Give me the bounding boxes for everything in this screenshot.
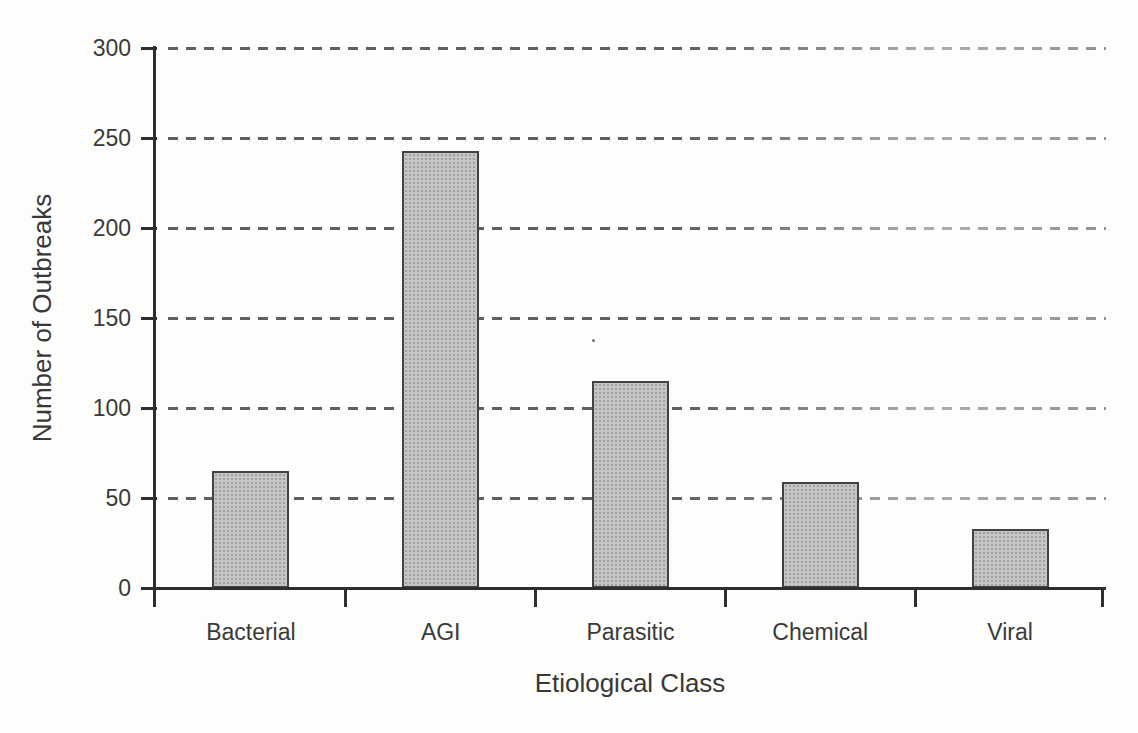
y-axis-title: Number of Outbreaks: [27, 194, 57, 443]
x-category-label-agi: AGI: [356, 619, 526, 645]
scan-artifact-speck: [592, 339, 595, 342]
y-axis-tick-300: [141, 47, 157, 50]
x-axis-tick-2: [534, 588, 537, 607]
bar-agi: [402, 151, 479, 588]
bar-chemical: [782, 482, 859, 588]
x-category-label-chemical: Chemical: [735, 619, 905, 645]
y-tick-label-150: 150: [51, 306, 131, 330]
y-tick-label-100: 100: [51, 396, 131, 420]
gridline-250: [168, 137, 1106, 140]
x-category-label-bacterial: Bacterial: [166, 619, 336, 645]
y-axis-tick-150: [141, 317, 157, 320]
y-axis-tick-100: [141, 407, 157, 410]
x-category-label-viral: Viral: [925, 619, 1095, 645]
y-axis-tick-0: [141, 587, 157, 590]
x-axis-line: [153, 587, 1106, 590]
x-category-label-parasitic: Parasitic: [546, 619, 716, 645]
gridline-300: [168, 47, 1106, 50]
bar-viral: [972, 529, 1049, 588]
x-axis-tick-3: [724, 588, 727, 607]
y-axis-tick-50: [141, 497, 157, 500]
y-axis-line: [153, 46, 156, 607]
gridline-150: [168, 317, 1106, 320]
y-axis-tick-250: [141, 137, 157, 140]
x-axis-end-tick: [1101, 587, 1104, 607]
x-axis-tick-4: [914, 588, 917, 607]
y-tick-label-300: 300: [51, 36, 131, 60]
x-axis-tick-1: [344, 588, 347, 607]
y-tick-label-250: 250: [51, 126, 131, 150]
y-tick-label-200: 200: [51, 216, 131, 240]
gridline-200: [168, 227, 1106, 230]
bar-chart-figure: 050100150200250300 BacterialAGIParasitic…: [0, 0, 1138, 733]
bar-parasitic: [592, 381, 669, 588]
x-axis-title: Etiological Class: [430, 668, 830, 698]
bar-bacterial: [212, 471, 289, 588]
y-tick-label-0: 0: [51, 576, 131, 600]
y-tick-label-50: 50: [51, 486, 131, 510]
y-axis-tick-200: [141, 227, 157, 230]
